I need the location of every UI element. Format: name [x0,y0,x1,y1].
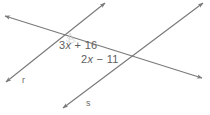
angle-lower-constant: 11 [107,53,119,65]
angle-upper-variable: x [65,39,71,51]
angle-label-lower: 2x − 11 [81,53,119,65]
line-label-s: s [86,98,91,108]
angle-label-upper: 3x + 16 [59,39,98,51]
geometry-figure: 3x + 16 2x − 11 r s [0,0,210,115]
angle-lower-variable: x [87,53,93,65]
angle-upper-operator: + [75,39,82,51]
line-label-r: r [22,75,25,85]
angle-upper-constant: 16 [85,39,98,51]
angle-lower-operator: − [97,53,104,65]
